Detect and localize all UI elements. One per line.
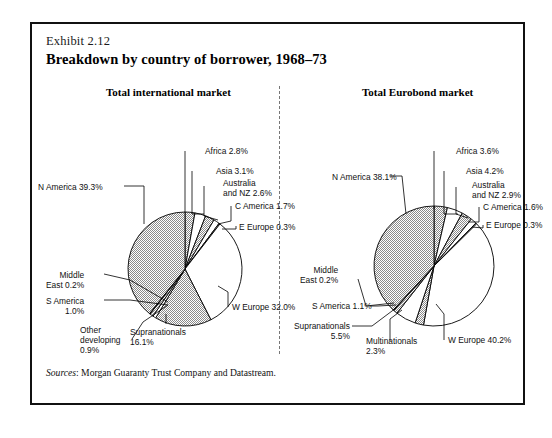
- label-australia-right: Australia and NZ 2.9%: [472, 180, 521, 200]
- source-text: : Morgan Guaranty Trust Company and Data…: [76, 367, 276, 378]
- pie-chart-eurobond: [32, 24, 527, 407]
- source-label: Sources: [46, 367, 76, 378]
- pie-slices-eurobond: [374, 206, 494, 326]
- label-weurope-right: W Europe 40.2%: [448, 335, 511, 345]
- label-namerica-right: N America 38.1%: [332, 172, 397, 182]
- label-camerica-right: C America 1.6%: [483, 202, 543, 212]
- exhibit-frame: Exhibit 2.12 Breakdown by country of bor…: [30, 22, 525, 405]
- label-middleeast-right: Middle East 0.2%: [300, 265, 338, 285]
- label-multinationals-right: Multinationals 2.3%: [366, 336, 417, 356]
- label-eeurope-right: E Europe 0.3%: [486, 220, 542, 230]
- label-samerica-right: S America 1.1%: [312, 301, 372, 311]
- label-asia-right: Asia 4.2%: [466, 166, 504, 176]
- source-note: Sources: Morgan Guaranty Trust Company a…: [46, 367, 276, 378]
- label-africa-right: Africa 3.6%: [456, 146, 499, 156]
- label-supranationals-right: Supranationals 5.5%: [294, 321, 350, 341]
